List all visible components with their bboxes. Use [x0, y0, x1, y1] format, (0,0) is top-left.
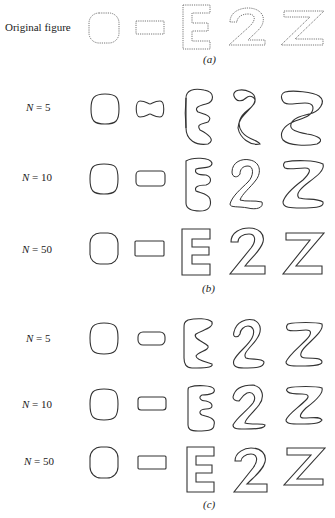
panel-a-caption: (a) [203, 53, 216, 65]
b-n5-rectangle-shape [134, 100, 166, 118]
c-n5-letter-z-shape [284, 320, 326, 368]
c-n10-oval-shape [89, 388, 119, 422]
b-n5-letter-z-shape [279, 90, 325, 146]
original-letter-z-shape [280, 10, 326, 46]
c-n50-digit-2-shape [233, 448, 271, 494]
original-digit-2-shape [228, 8, 268, 46]
b-n10-digit-2-shape [228, 158, 266, 212]
c-n10-letter-e-shape [186, 385, 218, 433]
original-rectangle-shape [135, 20, 165, 36]
b-n50-letter-e-shape [181, 228, 213, 278]
row-label-c-n50: N = 50 [24, 455, 54, 467]
c-n50-letter-z-shape [283, 447, 327, 487]
row-label-b-n10: N = 10 [22, 171, 52, 183]
c-n50-rectangle-shape [137, 455, 167, 471]
b-n5-digit-2-shape [228, 88, 264, 148]
c-n10-digit-2-shape [231, 385, 269, 431]
row-label-c-n5: N = 5 [26, 332, 51, 344]
c-n10-letter-z-shape [284, 386, 326, 426]
c-n5-rectangle-shape [137, 331, 167, 347]
b-n5-letter-e-shape [182, 88, 218, 146]
original-letter-e-shape [182, 4, 212, 50]
c-n5-digit-2-shape [230, 318, 268, 370]
b-n50-digit-2-shape [229, 228, 269, 276]
b-n5-oval-shape [90, 93, 120, 125]
b-n10-oval-shape [89, 163, 119, 195]
panel-b-caption: (b) [202, 282, 215, 294]
c-n50-letter-e-shape [186, 446, 216, 496]
c-n50-oval-shape [89, 446, 119, 480]
b-n50-letter-z-shape [282, 232, 326, 276]
b-n50-oval-shape [89, 232, 119, 266]
b-n10-letter-e-shape [182, 157, 216, 213]
row-label-b-n50: N = 50 [22, 243, 52, 255]
row-label-original: Original figure [5, 21, 71, 33]
c-n10-rectangle-shape [137, 396, 167, 412]
row-label-b-n5: N = 5 [26, 101, 51, 113]
c-n5-letter-e-shape [182, 318, 216, 370]
b-n50-rectangle-shape [134, 240, 166, 258]
original-oval-shape [88, 12, 120, 44]
b-n10-letter-z-shape [281, 160, 327, 210]
row-label-c-n10: N = 10 [22, 398, 52, 410]
b-n10-rectangle-shape [135, 170, 167, 188]
c-n5-oval-shape [89, 322, 119, 356]
panel-c-caption: (c) [203, 498, 215, 510]
